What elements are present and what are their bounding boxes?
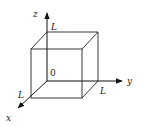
cube-edge-top-left-depth (31, 32, 47, 49)
x-edge-length-label: L (17, 90, 24, 100)
cube-edge-top-right-depth (82, 32, 98, 49)
cube-front-face (31, 49, 82, 98)
y-edge-length-label: L (99, 86, 106, 96)
cube-edge-bottom-right-depth (82, 81, 98, 98)
z-edge-length-label: L (50, 22, 57, 32)
y-axis-label: y (126, 76, 133, 86)
z-axis-label: z (32, 9, 38, 19)
cube-diagram: z y x 0 L L L (0, 0, 143, 127)
x-axis-label: x (6, 113, 11, 123)
origin-label: 0 (50, 68, 56, 78)
